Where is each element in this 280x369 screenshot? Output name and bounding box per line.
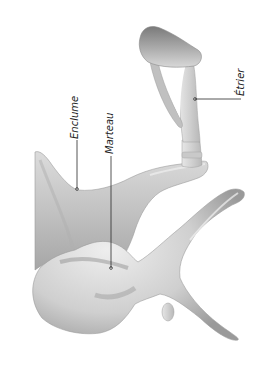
stapes-bone: [139, 26, 202, 167]
ossicles-illustration: [0, 0, 280, 369]
leader-line-etrier: [194, 98, 241, 101]
label-etrier: Étrier: [236, 69, 246, 96]
leader-line-enclume: [76, 140, 79, 190]
label-marteau: Marteau: [105, 113, 115, 154]
label-enclume: Enclume: [70, 96, 80, 139]
